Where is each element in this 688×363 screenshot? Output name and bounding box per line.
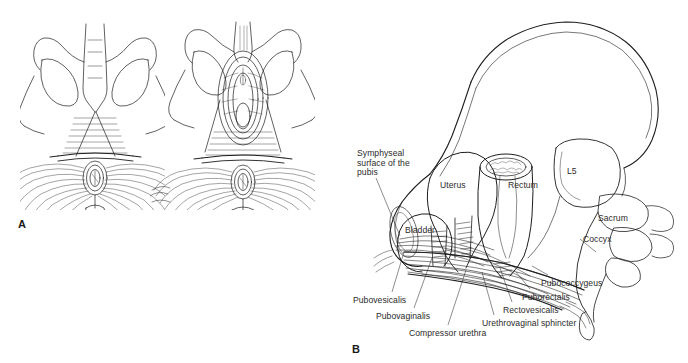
label-pubovesicalis: Pubovesicalis bbox=[353, 296, 406, 306]
label-rectovesicalis: Rectovesicalis bbox=[503, 306, 559, 316]
label-puborectalis: Puborectalis bbox=[522, 293, 570, 303]
label-compressor-urethra: Compressor urethra bbox=[409, 329, 486, 339]
label-coccyx: Coccyx bbox=[583, 235, 611, 245]
label-l5: L5 bbox=[567, 167, 577, 177]
panel-letter-b: B bbox=[352, 343, 360, 355]
label-pubococcygeus: Pubococcygeus bbox=[541, 279, 602, 289]
panel-letter-a: A bbox=[18, 218, 26, 230]
label-symphyseal-surface-of-the-pubis: Symphyseal surface of the pubis bbox=[357, 149, 410, 178]
label-uterus: Uterus bbox=[440, 181, 466, 191]
label-bladder: Bladder bbox=[405, 226, 435, 236]
label-urethrovaginal-sphincter: Urethrovaginal sphincter bbox=[482, 319, 576, 329]
label-sacrum: Sacrum bbox=[598, 214, 628, 224]
label-rectum: Rectum bbox=[508, 181, 538, 191]
panel-a-right-drawing bbox=[150, 22, 332, 225]
panel-a-left-drawing bbox=[6, 24, 184, 226]
anatomy-figure: Symphyseal surface of the pubis Uterus R… bbox=[0, 0, 688, 363]
label-pubovaginalis: Pubovaginalis bbox=[376, 312, 430, 322]
illustration-artwork bbox=[0, 0, 688, 363]
